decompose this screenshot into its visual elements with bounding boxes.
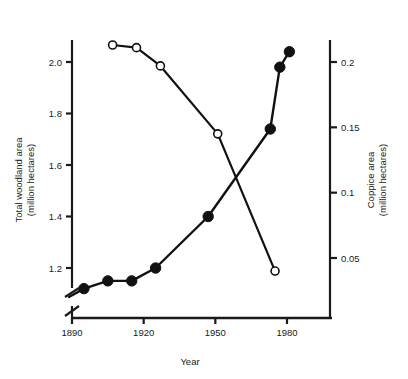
data-point xyxy=(265,124,275,134)
x-tick-label: 1950 xyxy=(205,327,226,338)
x-tick-label: 1980 xyxy=(276,327,297,338)
left-y-axis: 1.21.41.61.82.0 xyxy=(49,40,79,318)
left-tick-label: 1.4 xyxy=(49,211,62,222)
data-point xyxy=(156,62,164,70)
right-tick-label: 0.15 xyxy=(341,122,360,133)
x-tick-label: 1920 xyxy=(133,327,154,338)
data-point xyxy=(284,47,294,57)
series-woodland xyxy=(79,47,295,294)
left-tick-label: 2.0 xyxy=(49,57,62,68)
data-point xyxy=(103,276,113,286)
chart-canvas: 1.21.41.61.82.0 0.050.10.150.2 189019201… xyxy=(0,0,408,379)
x-axis: 1890192019501980 xyxy=(61,318,332,338)
chart-figure: 1.21.41.61.82.0 0.050.10.150.2 189019201… xyxy=(0,0,408,379)
left-tick-label: 1.6 xyxy=(49,160,62,171)
data-point xyxy=(150,263,160,273)
data-point xyxy=(79,283,89,293)
x-axis-title: Year xyxy=(180,356,199,367)
plot-area xyxy=(69,41,295,297)
data-point xyxy=(127,276,137,286)
series-path xyxy=(84,52,289,289)
data-point xyxy=(271,267,279,275)
left-tick-label: 1.8 xyxy=(49,108,62,119)
data-point xyxy=(275,62,285,72)
right-tick-label: 0.05 xyxy=(341,253,360,264)
right-y-axis: 0.050.10.150.2 xyxy=(330,40,360,318)
series-coppice xyxy=(109,41,279,275)
data-point xyxy=(203,211,213,221)
left-tick-label: 1.2 xyxy=(49,263,62,274)
left-axis-title-line2: (million hectares) xyxy=(25,144,36,216)
x-tick-label: 1890 xyxy=(61,327,82,338)
right-tick-label: 0.1 xyxy=(341,187,354,198)
right-axis-title-line1: Coppice area xyxy=(365,151,376,208)
data-point xyxy=(133,44,141,52)
right-tick-label: 0.2 xyxy=(341,57,354,68)
left-axis-title-line1: Total woodland area xyxy=(13,137,24,223)
data-point xyxy=(109,41,117,49)
data-point xyxy=(214,130,222,138)
right-axis-title-line2: (million hectares) xyxy=(377,144,388,216)
